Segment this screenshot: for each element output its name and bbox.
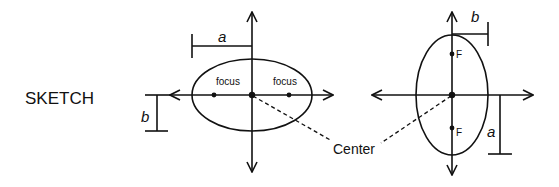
ellipse-sketch-diagram: SKETCH focus focus a b F	[0, 0, 559, 187]
right-focus-label-bottom: F	[456, 127, 462, 138]
left-focus-label-2: focus	[273, 76, 297, 87]
right-focus-point-bottom	[450, 126, 455, 131]
sketch-title: SKETCH	[25, 89, 94, 108]
right-ellipse-diagram: F F b a	[372, 8, 533, 175]
right-focus-point-top	[450, 52, 455, 57]
left-center-pointer	[253, 96, 332, 141]
right-a-label: a	[487, 123, 495, 140]
right-focus-label-top: F	[456, 49, 462, 60]
left-focus-point-2	[287, 93, 292, 98]
left-focus-point-1	[212, 93, 217, 98]
left-focus-label-1: focus	[216, 76, 240, 87]
left-b-label: b	[141, 108, 149, 125]
left-ellipse-diagram: focus focus a b	[141, 12, 333, 172]
center-label: Center	[333, 141, 375, 157]
right-b-label: b	[471, 8, 479, 25]
left-a-label: a	[218, 28, 226, 45]
